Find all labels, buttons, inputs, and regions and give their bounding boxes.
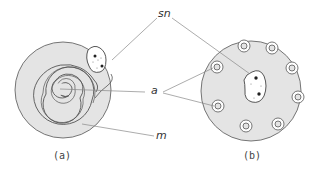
label-a: a bbox=[151, 84, 158, 97]
chromatin-dot bbox=[257, 92, 260, 95]
label-sn: sn bbox=[158, 7, 171, 20]
chromatin-dot bbox=[94, 55, 97, 58]
panel-b-unmyelinated-fiber bbox=[201, 40, 304, 141]
chromatin-dot bbox=[101, 65, 104, 68]
axon-b-1 bbox=[211, 61, 223, 73]
caption-b: (b) bbox=[243, 150, 261, 161]
schwann-nucleus-b bbox=[244, 71, 266, 103]
diagram-canvas bbox=[0, 0, 324, 175]
chromatin-dot bbox=[254, 76, 257, 79]
caption-a: (a) bbox=[53, 150, 71, 161]
label-m: m bbox=[156, 129, 167, 142]
